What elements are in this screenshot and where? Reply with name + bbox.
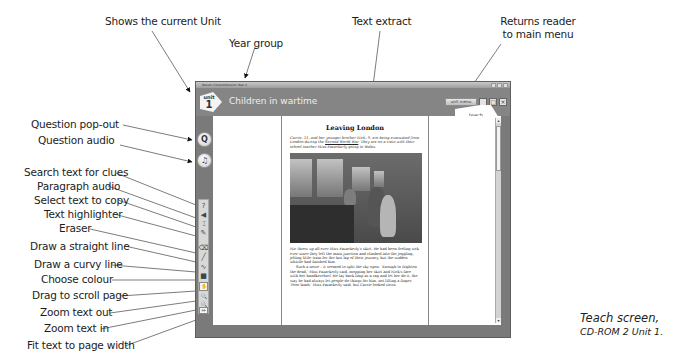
fit-width-icon: ⇔: [201, 306, 205, 315]
scroll-down-arrow[interactable]: ▾: [496, 318, 501, 323]
paragraph-1: Nic threw up all over Miss Fazackerly's …: [290, 247, 420, 265]
reader-window: Nelson Comprehension Year 4 unit 1 Child…: [195, 81, 511, 338]
straight-line-icon: ╱: [201, 253, 205, 262]
select-copy-icon: ⌶: [202, 220, 206, 229]
scroll-up-arrow[interactable]: ▴: [496, 118, 501, 123]
curvy-line-icon: ∿: [201, 263, 207, 272]
eraser-icon: ⌫: [199, 244, 209, 253]
os-maximize-button[interactable]: [497, 83, 502, 88]
straight-line-button[interactable]: ╱: [199, 253, 208, 262]
fit-width-button[interactable]: ⇔: [199, 307, 208, 314]
unit-badge-number: 1: [206, 100, 213, 110]
callout-zoom-out: Zoom text out: [40, 306, 112, 318]
maximize-button[interactable]: □: [489, 98, 497, 106]
hand-drag-icon: ✋: [201, 282, 207, 291]
audio-icon: ♫: [201, 156, 208, 165]
window-title: Nelson Comprehension Year 4: [202, 83, 247, 87]
callout-drag-scroll: Drag to scroll page: [32, 289, 128, 301]
caption-line-2: CD-ROM 2 Unit 1.: [580, 325, 663, 338]
callout-shows-unit: Shows the current Unit: [105, 15, 221, 27]
train-illustration: [290, 153, 422, 243]
question-icon: Q: [201, 135, 208, 144]
callout-year-group: Year group: [229, 37, 283, 49]
callout-eraser: Eraser: [59, 222, 91, 234]
extract-intro: Carrie, 11, and her younger brother Nick…: [290, 136, 420, 149]
extract-title: Leaving London: [290, 124, 420, 132]
callout-text-extract: Text extract: [352, 15, 411, 27]
question-popout-button[interactable]: Q: [197, 132, 212, 147]
callout-question-audio: Question audio: [38, 134, 115, 146]
highlighter-button[interactable]: ✎: [199, 229, 208, 238]
drag-scroll-button[interactable]: ✋: [199, 282, 208, 291]
choose-colour-button[interactable]: ■: [199, 272, 208, 281]
eraser-button[interactable]: ⌫: [199, 244, 208, 253]
search-clues-icon: ?: [202, 202, 206, 211]
paragraph-2: Such a noise – it seemed to split the sk…: [290, 265, 420, 287]
question-audio-button[interactable]: ♫: [197, 153, 212, 168]
callout-paragraph-audio: Paragraph audio: [37, 180, 120, 192]
caption-line-1: Teach screen,: [580, 311, 663, 325]
scroll-thumb[interactable]: [496, 126, 501, 171]
os-close-button[interactable]: [503, 83, 508, 88]
callout-returns-menu-line2: to main menu: [498, 28, 578, 41]
callout-choose-colour: Choose colour: [41, 273, 113, 285]
callout-returns-menu: Returns reader to main menu: [498, 15, 578, 41]
os-minimize-button[interactable]: [491, 83, 496, 88]
highlighter-icon: ✎: [201, 229, 207, 238]
callout-curvy-line: Draw a curvy line: [34, 258, 123, 270]
search-clues-button[interactable]: ?: [199, 202, 208, 211]
content-area: Leaving London Carrie, 11, and her young…: [213, 116, 501, 325]
intro-link[interactable]: Second World War: [325, 140, 358, 144]
callout-fit-width: Fit text to page width: [27, 339, 135, 351]
callout-question-popout: Question pop-out: [31, 118, 119, 130]
select-copy-button[interactable]: ⌶: [199, 220, 208, 229]
callout-select-copy: Select text to copy: [34, 194, 129, 206]
curvy-line-button[interactable]: ∿: [199, 263, 208, 272]
text-extract-page[interactable]: Leaving London Carrie, 11, and her young…: [281, 116, 429, 325]
extract-body: Nic threw up all over Miss Fazackerly's …: [290, 247, 420, 287]
minimize-button[interactable]: _: [479, 98, 487, 106]
callout-highlighter: Text highlighter: [44, 208, 122, 220]
figure-caption: Teach screen, CD-ROM 2 Unit 1.: [580, 311, 663, 338]
vertical-scrollbar[interactable]: ▴ ▾: [495, 118, 501, 323]
paragraph-audio-button[interactable]: ◀: [199, 211, 208, 220]
window-buttons: _ □ ×: [479, 98, 507, 106]
callout-search-clues: Search text for clues: [24, 166, 128, 178]
callout-returns-menu-line1: Returns reader: [498, 15, 578, 28]
colour-swatch-icon: ■: [200, 272, 207, 281]
tool-panel: ? ◀ ⌶ ✎ ⌫ ╱ ∿ ■ ✋ 🔍 🔍 ⇔: [198, 199, 209, 314]
paragraph-audio-icon: ◀: [201, 211, 206, 220]
callout-zoom-in: Zoom text in: [44, 322, 109, 334]
titlebar-controls: [491, 83, 508, 88]
unit-badge: unit 1: [200, 92, 222, 112]
callout-straight-line: Draw a straight line: [30, 240, 130, 252]
unit-menu-button[interactable]: unit menu: [445, 98, 477, 106]
unit-title: Children in wartime: [229, 96, 317, 106]
close-button[interactable]: ×: [499, 98, 507, 106]
